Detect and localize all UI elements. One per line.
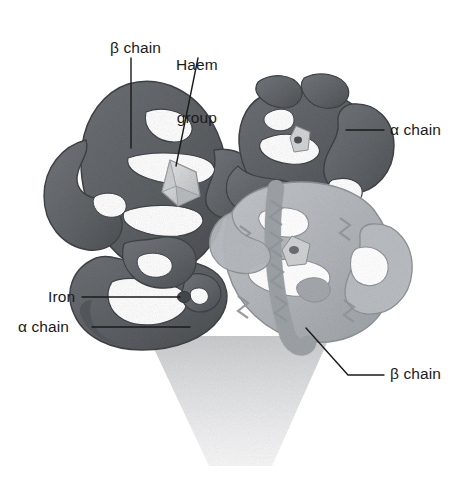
label-beta-chain-top: β chain	[110, 39, 161, 56]
label-alpha-chain-left: α chain	[18, 318, 69, 335]
label-haem-group-line2: group	[176, 109, 218, 127]
haemoglobin-figure: β chain Haem group α chain Iron α chain …	[0, 0, 463, 491]
beta-chain-lower-right	[210, 182, 412, 348]
label-haem-group: Haem group	[176, 21, 218, 161]
label-iron: Iron	[48, 288, 75, 305]
label-beta-chain-bottom: β chain	[390, 365, 441, 382]
haemoglobin-illustration	[0, 0, 463, 491]
label-alpha-chain-right: α chain	[390, 121, 441, 138]
label-haem-group-line1: Haem	[176, 56, 218, 74]
